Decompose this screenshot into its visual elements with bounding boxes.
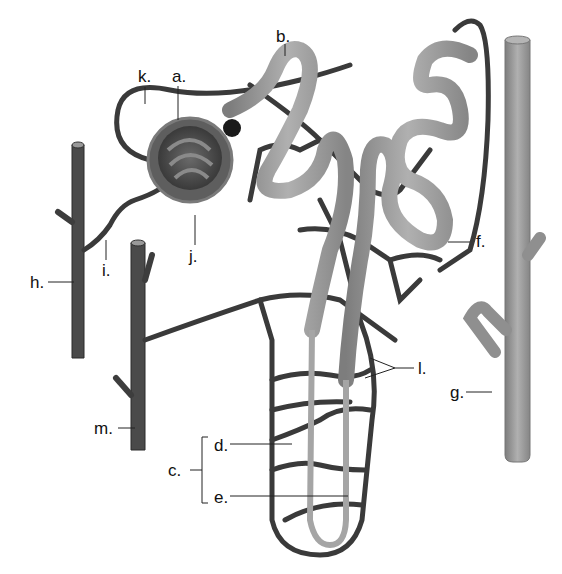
label-d: d.	[214, 437, 228, 454]
label-b: b.	[276, 28, 290, 45]
label-g: g.	[450, 384, 464, 401]
label-c: c.	[168, 462, 181, 479]
glomerular-capsule	[148, 118, 241, 202]
nephron-illustration	[0, 0, 562, 574]
artery-h	[58, 142, 84, 358]
label-i: i.	[102, 262, 111, 279]
label-j: j.	[189, 248, 198, 265]
label-e: e.	[214, 489, 228, 506]
label-h: h.	[30, 274, 44, 291]
nephron-diagram: a. b. c. d. e. f. g. h. i. j. k. l. m.	[0, 0, 562, 574]
vein-m	[116, 240, 152, 450]
label-a: a.	[172, 68, 186, 85]
label-l: l.	[418, 360, 427, 377]
label-f: f.	[476, 233, 485, 250]
label-m: m.	[94, 420, 113, 437]
label-k: k.	[138, 68, 151, 85]
